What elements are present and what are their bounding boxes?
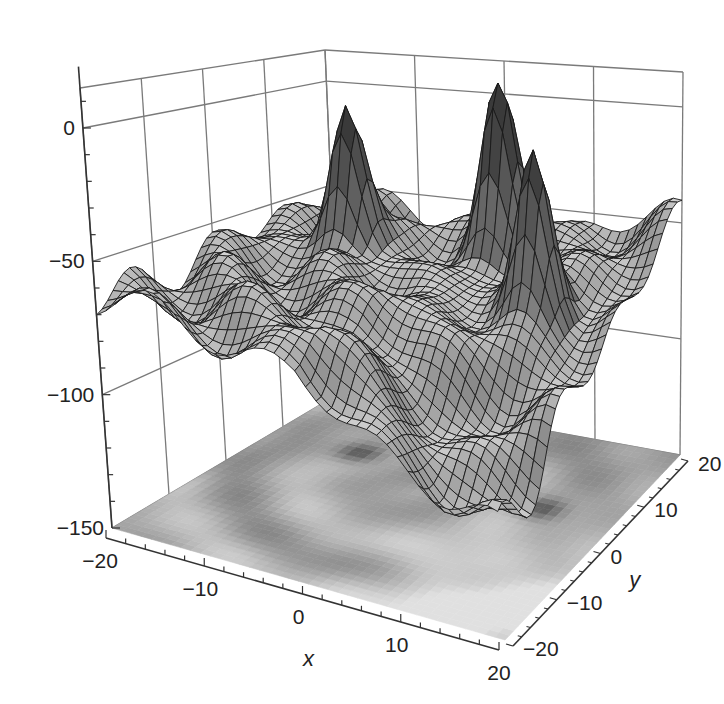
- y-axis-tick: [605, 543, 609, 544]
- y-axis-tick: [570, 580, 574, 581]
- x-tick-label: 20: [487, 661, 510, 684]
- y-axis-tick: [544, 608, 548, 609]
- box-top-edge: [80, 50, 325, 88]
- z-tick-label: −100: [47, 383, 94, 406]
- x-tick-label: −10: [182, 577, 218, 600]
- y-axis-tick: [658, 488, 662, 489]
- y-axis-tick: [614, 534, 618, 535]
- surface-plot: 0−50−100−150−20−1001020−20−1001020xy: [0, 0, 724, 704]
- z-axis-line: [78, 67, 112, 528]
- x-tick-label: 0: [293, 605, 305, 628]
- x-axis-label: x: [302, 646, 315, 671]
- y-axis-tick: [579, 571, 583, 572]
- y-axis-tick: [667, 479, 671, 480]
- y-axis-tick: [550, 598, 557, 600]
- x-tick-label: 10: [385, 633, 408, 656]
- y-axis-tick: [675, 469, 679, 470]
- y-axis-tick: [535, 617, 539, 618]
- y-axis-tick: [506, 644, 513, 646]
- y-tick-label: −20: [523, 637, 559, 660]
- y-axis-tick: [623, 525, 627, 526]
- y-tick-label: 20: [698, 452, 721, 475]
- y-axis-tick: [588, 562, 592, 563]
- y-axis-tick: [632, 516, 636, 517]
- z-tick-label: −150: [57, 516, 104, 539]
- y-tick-label: −10: [567, 591, 603, 614]
- y-tick-label: 10: [654, 498, 677, 521]
- y-axis-tick: [594, 552, 601, 554]
- z-tick-label: 0: [63, 116, 75, 139]
- right-wall-gridline: [680, 72, 683, 455]
- z-tick-label: −50: [49, 249, 85, 272]
- y-axis-tick: [637, 505, 644, 507]
- y-axis-tick: [681, 459, 688, 461]
- y-axis-tick: [527, 627, 531, 628]
- y-axis-label: y: [627, 567, 642, 592]
- x-tick-label: −20: [82, 549, 118, 572]
- y-tick-label: 0: [611, 545, 623, 568]
- y-axis-tick: [518, 636, 522, 637]
- y-axis-tick: [562, 590, 566, 591]
- y-axis-tick: [649, 497, 653, 498]
